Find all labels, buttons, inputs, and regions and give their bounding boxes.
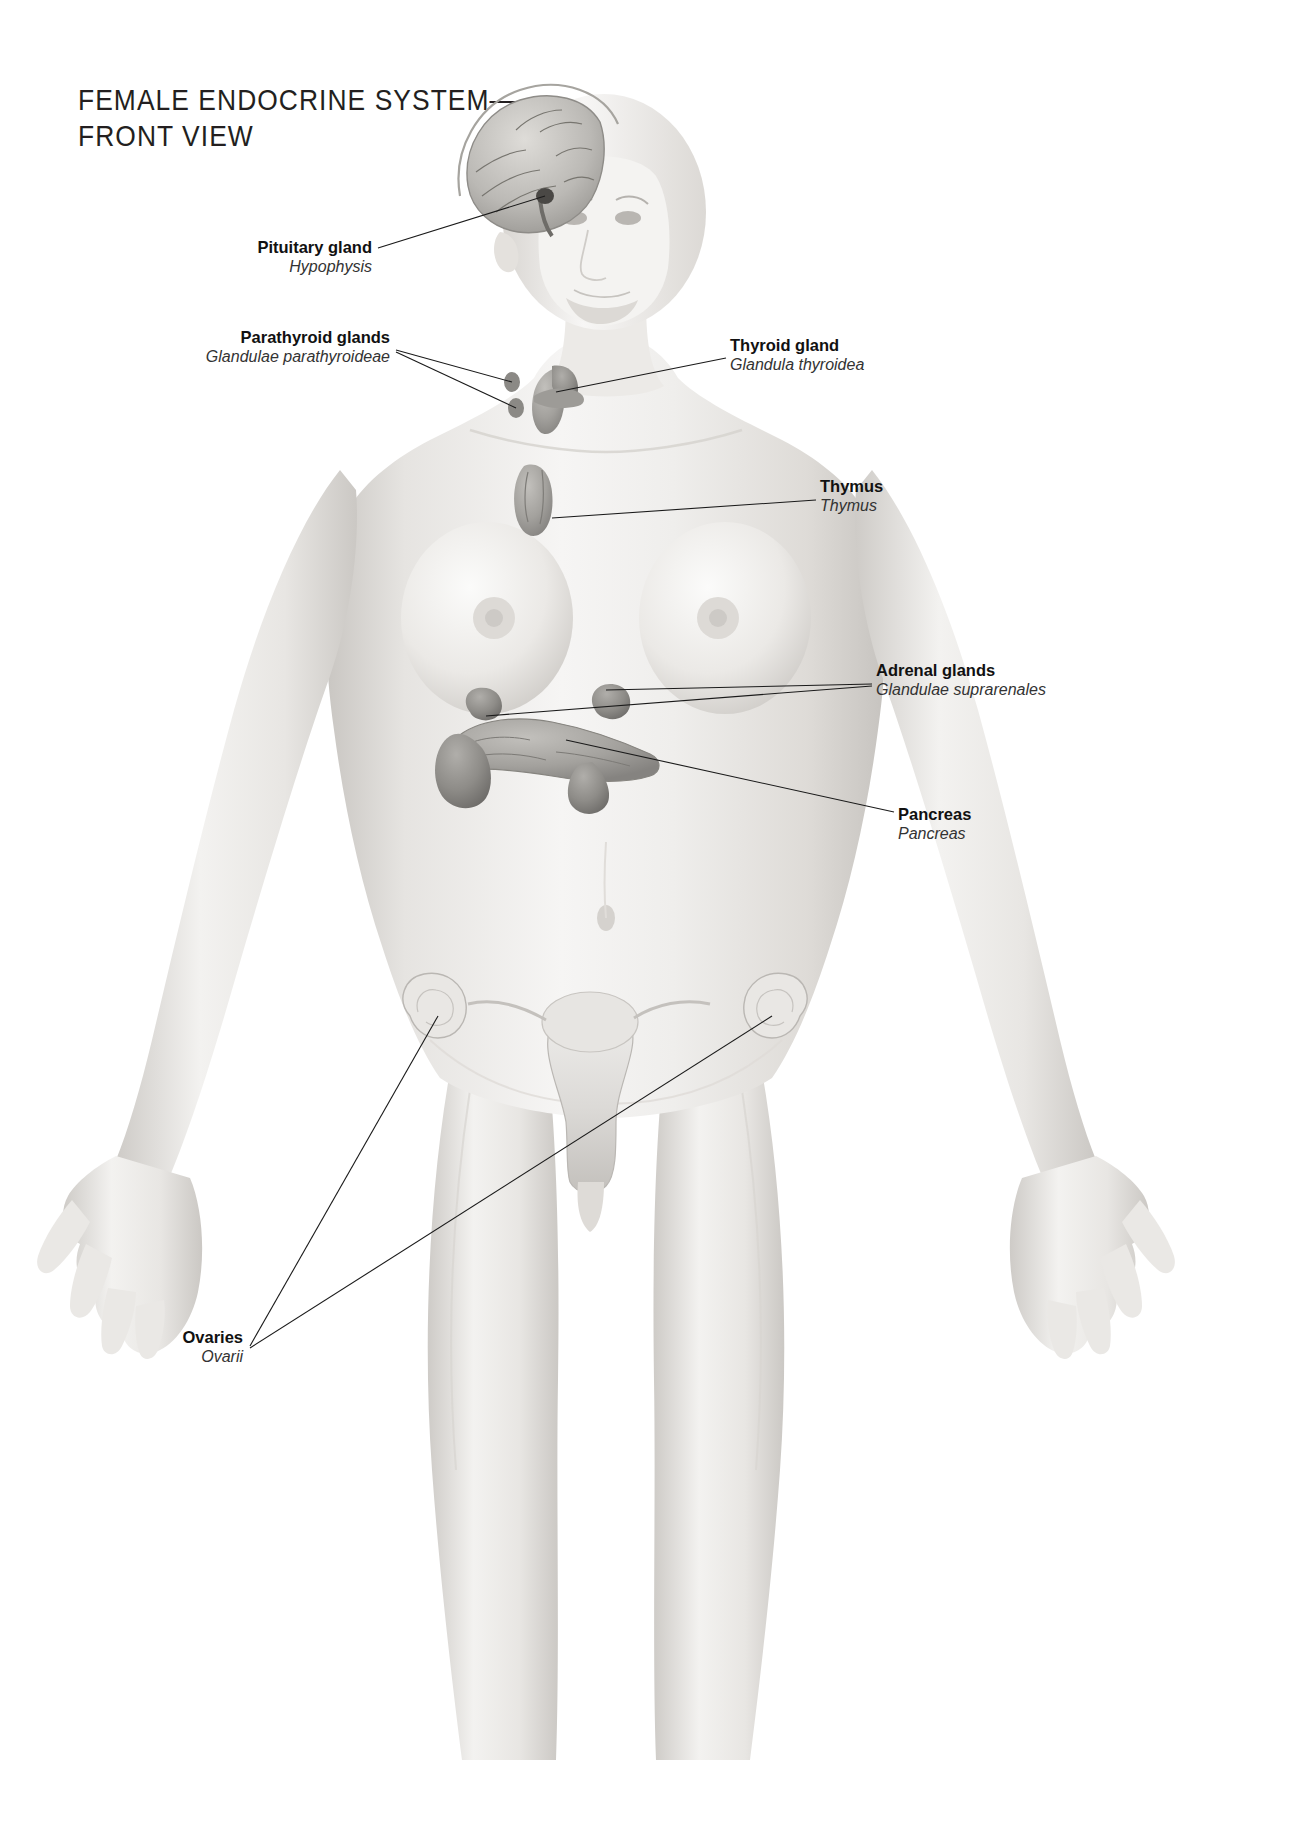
label-thymus-en: Thymus (820, 477, 1020, 496)
label-pancreas-en: Pancreas (898, 805, 1118, 824)
label-adrenal: Adrenal glands Glandulae suprarenales (876, 661, 1176, 699)
ovary-left (403, 973, 466, 1038)
label-thymus: Thymus Thymus (820, 477, 1020, 515)
label-pituitary-la: Hypophysis (112, 257, 372, 276)
label-pituitary: Pituitary gland Hypophysis (112, 238, 372, 276)
label-adrenal-en: Adrenal glands (876, 661, 1176, 680)
label-thyroid: Thyroid gland Glandula thyroidea (730, 336, 990, 374)
label-parathyroid-en: Parathyroid glands (110, 328, 390, 347)
label-parathyroid-la: Glandulae parathyroideae (110, 347, 390, 366)
label-ovaries-la: Ovarii (43, 1347, 243, 1366)
label-ovaries: Ovaries Ovarii (43, 1328, 243, 1366)
hand-right (1010, 1156, 1175, 1359)
label-thyroid-en: Thyroid gland (730, 336, 990, 355)
label-thymus-la: Thymus (820, 496, 1020, 515)
pituitary-gland (536, 188, 554, 204)
label-pituitary-en: Pituitary gland (112, 238, 372, 257)
label-adrenal-la: Glandulae suprarenales (876, 680, 1176, 699)
head (459, 85, 706, 330)
label-ovaries-en: Ovaries (43, 1328, 243, 1347)
illustration-canvas: FEMALE ENDOCRINE SYSTEM— FRONT VIEW (0, 0, 1311, 1823)
thymus-gland (514, 465, 552, 536)
label-pancreas-la: Pancreas (898, 824, 1118, 843)
label-parathyroid: Parathyroid glands Glandulae parathyroid… (110, 328, 390, 366)
label-thyroid-la: Glandula thyroidea (730, 355, 990, 374)
label-pancreas: Pancreas Pancreas (898, 805, 1118, 843)
